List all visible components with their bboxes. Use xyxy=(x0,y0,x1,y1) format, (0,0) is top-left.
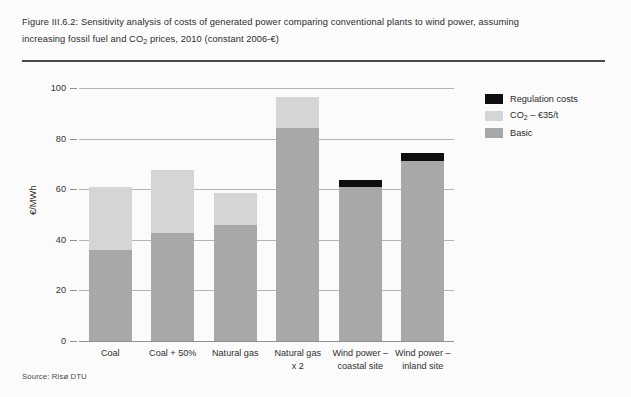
y-axis-tick-mark xyxy=(70,189,77,190)
legend-item-basic: Basic xyxy=(485,124,600,141)
y-axis-tick-label: 40 xyxy=(56,235,66,245)
caption-divider-rule xyxy=(22,60,605,62)
y-axis-tick-label: 60 xyxy=(56,184,66,194)
y-axis-tick-label: 80 xyxy=(56,134,66,144)
y-axis-tick-mark xyxy=(70,341,77,342)
bar-segment-basic[interactable] xyxy=(276,128,319,341)
figure-container: Figure III.6.2: Sensitivity analysis of … xyxy=(0,0,631,397)
legend-item-co2-price: CO2 – €35/t xyxy=(485,107,600,124)
bar-segment-basic[interactable] xyxy=(89,250,132,341)
bar-segment-regulation[interactable] xyxy=(401,153,444,161)
y-axis-tick-mark xyxy=(70,240,77,241)
legend-swatch-regulation-costs xyxy=(485,94,503,104)
bar-segment-basic[interactable] xyxy=(339,187,382,341)
x-axis-tick-label: Coal + 50% xyxy=(142,347,205,360)
bar-segment-basic[interactable] xyxy=(151,233,194,341)
y-axis-tick-label: 20 xyxy=(56,285,66,295)
caption-line-2-text-a: increasing fossil fuel and CO xyxy=(22,34,143,44)
bar-segment-basic[interactable] xyxy=(214,225,257,341)
legend-label-co2-price: CO2 – €35/t xyxy=(510,110,558,121)
bar-stack[interactable] xyxy=(214,88,257,341)
bar-segment-basic[interactable] xyxy=(401,161,444,341)
gridline xyxy=(79,88,454,89)
x-axis-tick-label: Wind power – inland site xyxy=(392,347,455,372)
legend-swatch-basic xyxy=(485,128,503,138)
bar-segment-regulation[interactable] xyxy=(339,180,382,187)
x-axis-tick-label: Wind power – coastal site xyxy=(329,347,392,372)
legend-label-co2-text-a: CO xyxy=(510,110,524,120)
legend-label-basic: Basic xyxy=(510,128,532,138)
source-note: Source: Risø DTU xyxy=(22,372,87,381)
bar-segment-co2[interactable] xyxy=(151,170,194,233)
bar-segment-co2[interactable] xyxy=(89,187,132,250)
chart-panel: €/MWh 020406080100 CoalCoal + 50%Natural… xyxy=(22,70,605,360)
legend-item-regulation-costs: Regulation costs xyxy=(485,90,600,107)
x-axis-tick-label: Coal xyxy=(79,347,142,360)
caption-line-1: Figure III.6.2: Sensitivity analysis of … xyxy=(22,14,605,31)
y-axis-tick-mark xyxy=(70,88,77,89)
bar-stack[interactable] xyxy=(276,88,319,341)
y-axis-tick-label: 0 xyxy=(61,336,66,346)
gridline xyxy=(79,290,454,291)
caption-line-2-text-b: prices, 2010 (constant 2006-€) xyxy=(147,34,279,44)
legend-swatch-co2-price xyxy=(485,111,503,121)
y-axis-tick-label: 100 xyxy=(51,83,66,93)
gridline xyxy=(79,139,454,140)
gridline xyxy=(79,189,454,190)
y-axis-tick-mark xyxy=(70,290,77,291)
bar-segment-co2[interactable] xyxy=(214,193,257,225)
legend-label-co2-text-b: – €35/t xyxy=(528,110,559,120)
plot-area: 020406080100 CoalCoal + 50%Natural gasNa… xyxy=(79,88,454,341)
x-axis-baseline xyxy=(79,341,454,342)
chart-legend: Regulation costs CO2 – €35/t Basic xyxy=(485,90,600,141)
bar-stack[interactable] xyxy=(89,88,132,341)
bar-segment-co2[interactable] xyxy=(276,97,319,129)
y-axis-tick-mark xyxy=(70,139,77,140)
legend-label-regulation-costs: Regulation costs xyxy=(510,94,578,104)
figure-caption: Figure III.6.2: Sensitivity analysis of … xyxy=(22,14,605,50)
x-axis-tick-label: Natural gas x 2 xyxy=(267,347,330,372)
x-axis-tick-label: Natural gas xyxy=(204,347,267,360)
bar-stack[interactable] xyxy=(339,88,382,341)
bar-stack[interactable] xyxy=(401,88,444,341)
caption-line-2: increasing fossil fuel and CO2 prices, 2… xyxy=(22,31,605,50)
gridline xyxy=(79,240,454,241)
bar-stack[interactable] xyxy=(151,88,194,341)
y-axis-title: €/MWh xyxy=(28,186,38,215)
